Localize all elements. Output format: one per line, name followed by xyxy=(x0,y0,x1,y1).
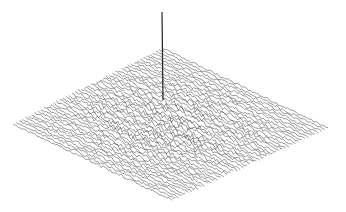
mesh-line xyxy=(75,92,237,172)
mesh-line xyxy=(143,58,308,138)
mesh-line xyxy=(156,51,322,131)
mesh-line xyxy=(29,117,189,193)
central-peak xyxy=(162,12,163,100)
mesh-line xyxy=(13,125,172,201)
mesh-line xyxy=(78,90,240,170)
mesh-line xyxy=(84,87,246,166)
mesh-line xyxy=(159,49,325,129)
mesh-line xyxy=(19,121,178,198)
mesh-line xyxy=(134,63,299,142)
surface-plot xyxy=(0,0,346,212)
wireframe-mesh xyxy=(13,48,328,201)
mesh-line xyxy=(22,120,182,196)
mesh-line xyxy=(147,56,312,135)
mesh-line xyxy=(50,105,211,183)
